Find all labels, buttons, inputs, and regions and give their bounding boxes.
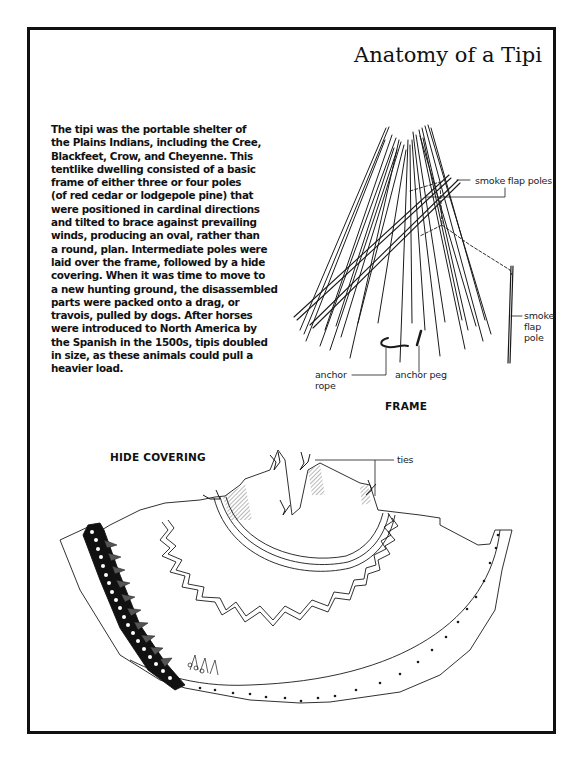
small-motifs [188, 655, 218, 675]
label-ties: ties [397, 454, 413, 465]
hide-covering-caption: HIDE COVERING [110, 451, 206, 463]
hide-outline [60, 450, 512, 703]
edge-pegs [199, 534, 500, 703]
zigzag-band [160, 518, 398, 626]
hide-covering-illustration [0, 0, 588, 762]
